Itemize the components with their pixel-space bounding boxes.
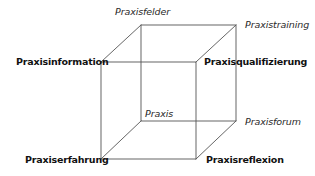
label-praxisfelder: Praxisfelder <box>115 7 170 17</box>
cube-back-face <box>141 25 236 121</box>
label-praxisreflexion: Praxisreflexion <box>206 155 284 165</box>
label-praxiserfahrung: Praxiserfahrung <box>25 155 109 165</box>
label-praxisforum: Praxisforum <box>245 117 301 127</box>
label-praxistraining: Praxistraining <box>245 20 309 30</box>
label-praxis: Praxis <box>145 109 173 119</box>
label-praxisqualifizierung: Praxisqualifizierung <box>204 57 307 67</box>
cube-diagram: Praxisfelder Praxistraining Praxisinform… <box>0 0 315 176</box>
label-praxisinformation: Praxisinformation <box>16 57 108 67</box>
